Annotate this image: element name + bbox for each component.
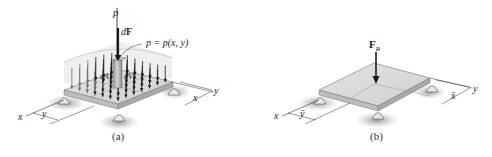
dim-ybar-b: ȳ (299, 108, 305, 119)
svg-text:x: x (273, 110, 279, 121)
pressure-label: p (112, 6, 119, 18)
dF-label: dF (121, 26, 132, 37)
figure-canvas: p dF p = p(x, y) dA dV x y y x (a) (0, 0, 492, 157)
svg-text:y: y (213, 85, 219, 96)
dim-xbar-b: x̄ (450, 90, 456, 101)
caption-a: (a) (112, 130, 125, 143)
dV-label: dV (124, 72, 134, 81)
svg-text:x: x (17, 111, 23, 122)
caption-b: (b) (370, 130, 383, 143)
distribution-label: p = p(x, y) (145, 37, 189, 49)
figure-b: FR x ȳ y x̄ (b) (273, 38, 478, 143)
dim-y-a: y (41, 108, 47, 119)
svg-text:y: y (472, 83, 478, 94)
dA-label: dA (100, 72, 109, 81)
dim-x-a: x (192, 92, 198, 103)
figure-a: p dF p = p(x, y) dA dV x y y x (a) (17, 6, 219, 143)
resultant-label: FR (369, 38, 381, 53)
